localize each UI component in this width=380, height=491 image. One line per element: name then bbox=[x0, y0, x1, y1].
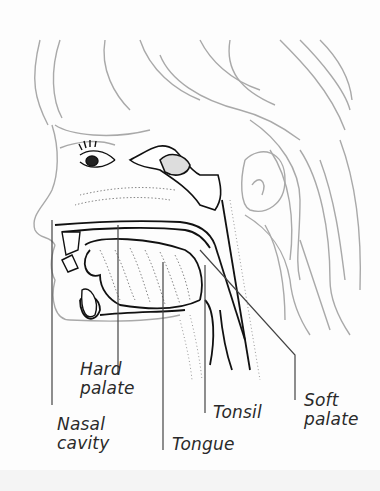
sinus bbox=[130, 146, 221, 210]
label-hard-palate: Hard palate bbox=[80, 360, 135, 398]
label-tonsil: Tonsil bbox=[213, 403, 262, 422]
ear bbox=[242, 152, 285, 211]
label-tongue: Tongue bbox=[172, 435, 235, 454]
diagram-canvas: Hard palate Nasal cavity Tongue Tonsil S… bbox=[0, 0, 380, 491]
label-nasal-cavity: Nasal cavity bbox=[57, 415, 109, 453]
label-soft-palate: Soft palate bbox=[304, 391, 359, 429]
oral-cavity bbox=[55, 200, 250, 370]
bottom-margin bbox=[0, 470, 380, 491]
